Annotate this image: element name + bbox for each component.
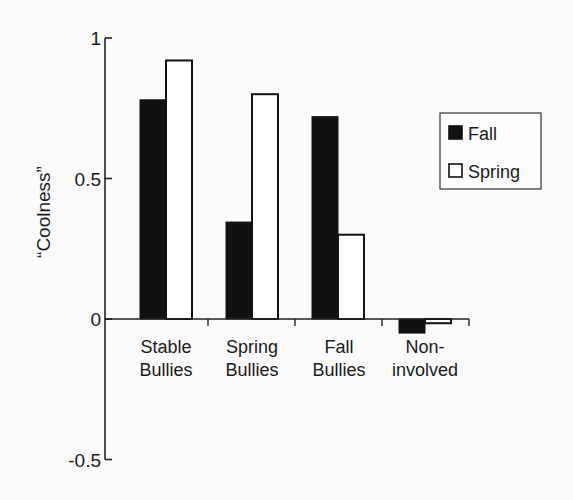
- bar-spring-2: [338, 235, 364, 319]
- legend-swatch-fall: [449, 126, 462, 139]
- bar-spring-1: [252, 94, 278, 319]
- category-label: Spring: [226, 337, 278, 357]
- category-label: Bullies: [312, 360, 365, 380]
- bar-fall-1: [226, 222, 252, 319]
- bar-fall-0: [140, 100, 166, 319]
- y-axis: 10.50-0.5: [68, 28, 112, 471]
- bar-fall-3: [399, 319, 425, 333]
- legend-label-fall: Fall: [468, 124, 497, 144]
- category-label: Fall: [324, 337, 353, 357]
- category-label: Stable: [140, 337, 191, 357]
- y-axis-title: “Coolness”: [33, 166, 54, 258]
- legend-label-spring: Spring: [468, 162, 520, 182]
- y-tick-label: 0: [90, 309, 101, 330]
- category-label: Bullies: [225, 360, 278, 380]
- category-label: Non-: [405, 337, 444, 357]
- legend: FallSpring: [440, 113, 541, 189]
- y-tick-label: 1: [90, 28, 101, 49]
- y-axis-label: “Coolness”: [33, 166, 54, 258]
- bar-chart: 10.50-0.5 “Coolness” StableBulliesSpring…: [0, 0, 573, 500]
- bars: [140, 60, 451, 333]
- y-tick-label: 0.5: [75, 169, 101, 190]
- y-tick-label: -0.5: [68, 450, 101, 471]
- category-labels: StableBulliesSpringBulliesFallBulliesNon…: [139, 337, 458, 380]
- category-label: Bullies: [139, 360, 192, 380]
- bar-fall-2: [312, 117, 338, 319]
- legend-swatch-spring: [449, 164, 462, 177]
- bar-spring-0: [166, 60, 192, 319]
- category-label: involved: [392, 360, 458, 380]
